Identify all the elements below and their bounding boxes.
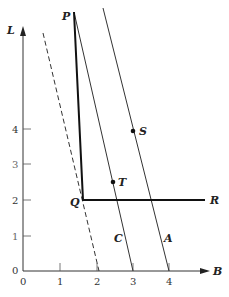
x-tick-2: 2 xyxy=(94,276,100,287)
diagram-figure: L 1 2 3 4 0 B 0 1 2 3 4 xyxy=(0,0,229,297)
y-tick-1: 1 xyxy=(12,231,18,242)
x-tick-1: 1 xyxy=(57,276,63,287)
y-axis: L 1 2 3 4 0 xyxy=(6,24,31,276)
line-c-label: C xyxy=(114,232,123,245)
x-origin-label: 0 xyxy=(20,276,26,287)
x-tick-3: 3 xyxy=(130,276,136,287)
point-q-label: Q xyxy=(70,196,80,209)
line-a-label: A xyxy=(163,232,173,245)
x-tick-4: 4 xyxy=(166,276,172,287)
kinked-curve-pqr xyxy=(74,12,205,200)
line-a xyxy=(103,8,169,271)
line-c xyxy=(74,12,133,271)
x-axis-arrow-icon xyxy=(200,268,210,274)
point-p-label: P xyxy=(61,10,71,23)
dashed-line xyxy=(43,33,99,271)
y-tick-4: 4 xyxy=(12,124,18,135)
y-axis-label: L xyxy=(6,24,15,37)
y-tick-3: 3 xyxy=(12,159,18,170)
diagram-canvas: L 1 2 3 4 0 B 0 1 2 3 4 xyxy=(0,0,229,297)
point-t-label: T xyxy=(118,176,127,189)
y-axis-arrow-icon xyxy=(20,26,26,36)
x-axis: B 0 1 2 3 4 xyxy=(20,263,222,287)
point-s-label: S xyxy=(139,125,147,138)
x-axis-label: B xyxy=(212,265,222,278)
point-r-label: R xyxy=(209,194,219,207)
y-origin-label: 0 xyxy=(12,265,18,276)
point-s-dot xyxy=(131,129,136,134)
y-tick-2: 2 xyxy=(12,195,18,206)
point-t-dot xyxy=(111,180,116,185)
